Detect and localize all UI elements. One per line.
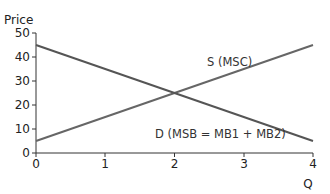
ytick-label-40: 40 — [15, 50, 30, 64]
ytick-label-0: 0 — [22, 146, 30, 160]
xtick-label-0: 0 — [32, 157, 40, 171]
xtick-label-4: 4 — [309, 157, 317, 171]
demand-label: D (MSB = MB1 + MB2) — [155, 127, 286, 141]
supply-label: S (MSC) — [207, 55, 252, 69]
ytick-label-10: 10 — [15, 122, 30, 136]
y-axis-title: Price — [4, 13, 33, 27]
xtick-label-3: 3 — [240, 157, 248, 171]
xtick-label-1: 1 — [101, 157, 109, 171]
ytick-label-30: 30 — [15, 74, 30, 88]
chart: 0 10 20 30 40 50 0 1 2 3 4 Price Q S (MS… — [0, 0, 330, 194]
x-axis-title: Q — [303, 177, 312, 191]
xtick-label-2: 2 — [171, 157, 179, 171]
ytick-label-20: 20 — [15, 98, 30, 112]
ytick-label-50: 50 — [15, 26, 30, 40]
y-ticks — [32, 33, 36, 153]
